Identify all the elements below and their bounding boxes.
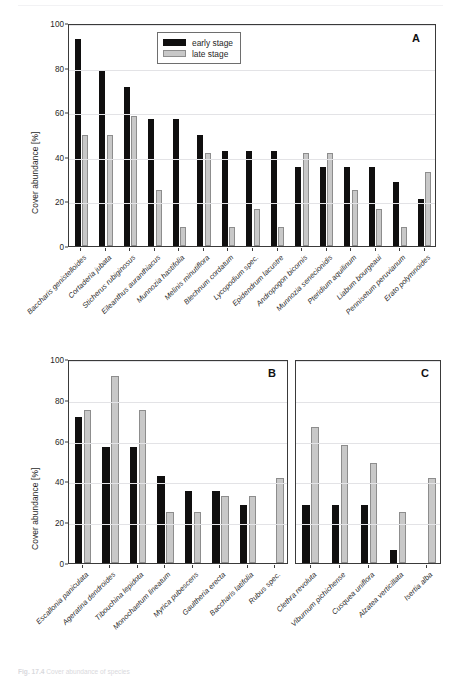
x-tick-mark (137, 565, 138, 568)
x-tick-label: Viburnum pichichense (289, 570, 347, 628)
x-tick-mark (399, 248, 400, 251)
panel-a-x-axis-labels: Baccharis genistelloidesCortaderia jubat… (0, 14, 463, 340)
x-tick-mark (326, 248, 327, 251)
header-rule (18, 5, 443, 6)
x-tick-mark (105, 248, 106, 251)
x-tick-mark (397, 565, 398, 568)
x-tick-mark (164, 565, 165, 568)
x-tick-mark (301, 248, 302, 251)
x-tick-mark (247, 565, 248, 568)
x-tick-mark (219, 565, 220, 568)
chart-panel-c: C Clethra revolutaViburnum pichichenseCu… (290, 352, 463, 672)
x-tick-mark (426, 565, 427, 568)
x-tick-mark (368, 565, 369, 568)
x-tick-mark (192, 565, 193, 568)
page-header (0, 0, 463, 14)
x-tick-mark (424, 248, 425, 251)
x-tick-label: Erato polymnoides (382, 253, 432, 303)
x-tick-mark (277, 248, 278, 251)
x-tick-mark (178, 248, 179, 251)
x-tick-mark (274, 565, 275, 568)
chart-panel-b: Cover abundance [%] 020406080100 B Escal… (0, 352, 290, 672)
figure-caption: Fig. 17.4 Cover abundance of species (18, 668, 448, 676)
x-tick-mark (129, 248, 130, 251)
figure-caption-text: Cover abundance of species (46, 668, 130, 675)
x-tick-mark (310, 565, 311, 568)
x-tick-mark (252, 248, 253, 251)
x-tick-mark (375, 248, 376, 251)
x-tick-mark (154, 248, 155, 251)
panel-c-x-axis-labels: Clethra revolutaViburnum pichichenseCusq… (290, 352, 463, 672)
chart-panel-a: Cover abundance [%] 020406080100 A early… (0, 14, 463, 340)
x-tick-label: Tibouchina lepidota (93, 570, 145, 622)
panel-b-x-axis-labels: Escallonia paniculataAgeratina dendroide… (0, 352, 290, 672)
x-tick-mark (339, 565, 340, 568)
x-tick-mark (82, 565, 83, 568)
figure-caption-number: Fig. 17.4 (18, 668, 44, 675)
x-tick-mark (109, 565, 110, 568)
x-tick-label: Isertia alba (402, 570, 434, 602)
x-tick-mark (203, 248, 204, 251)
x-tick-mark (80, 248, 81, 251)
x-tick-mark (227, 248, 228, 251)
x-tick-mark (350, 248, 351, 251)
